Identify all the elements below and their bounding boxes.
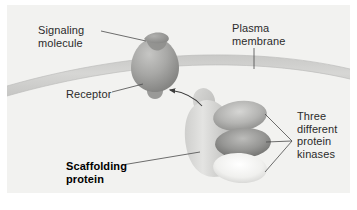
label-receptor: Receptor: [66, 88, 111, 101]
receptor-protein: [131, 35, 179, 99]
plasma-membrane-band: [7, 55, 350, 96]
label-signaling-molecule: Signaling molecule: [38, 24, 84, 49]
protein-kinase-group: [211, 98, 271, 185]
label-plasma-membrane: Plasma membrane: [232, 22, 285, 47]
leader-signaling-molecule: [101, 31, 146, 41]
label-scaffolding-protein: Scaffolding protein: [66, 160, 127, 185]
leader-scaffolding-protein: [122, 152, 200, 165]
leader-receptor: [112, 84, 143, 92]
figure-container: Signaling molecule Plasma membrane Recep…: [0, 0, 357, 210]
label-three-protein-kinases: Three different protein kinases: [297, 110, 337, 160]
